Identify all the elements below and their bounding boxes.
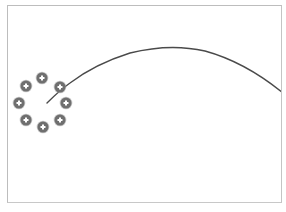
marker-top-icon[interactable] (36, 72, 49, 85)
drawing-canvas[interactable] (0, 0, 286, 212)
marker-top-right-icon[interactable] (54, 81, 67, 94)
marker-left-icon[interactable] (13, 97, 26, 110)
marker-bottom-icon[interactable] (37, 121, 50, 134)
marker-bottom-left-icon[interactable] (20, 114, 33, 127)
marker-right-icon[interactable] (60, 97, 73, 110)
marker-bottom-right-icon[interactable] (54, 114, 67, 127)
curved-arc-line[interactable] (47, 47, 283, 103)
marker-top-left-icon[interactable] (20, 80, 33, 93)
marker-ring (13, 72, 73, 134)
